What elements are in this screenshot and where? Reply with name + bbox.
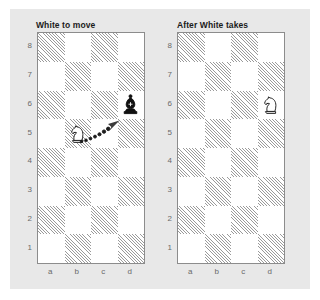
rank-label-6: 6 (18, 99, 32, 108)
board-title-before: White to move (36, 20, 95, 30)
board-panel-before: White to move 87654321abcd (10, 9, 160, 289)
square-b3[interactable] (65, 177, 92, 206)
board-title-after: After White takes (177, 20, 248, 30)
square-d3[interactable] (118, 177, 145, 206)
square-b6[interactable] (65, 91, 92, 120)
square-a2[interactable] (38, 206, 65, 235)
square-a4[interactable] (38, 148, 65, 177)
rank-label-5: 5 (158, 128, 172, 137)
square-a8[interactable] (178, 33, 205, 62)
square-c3[interactable] (231, 177, 258, 206)
square-c5[interactable] (231, 119, 258, 148)
file-label-d: d (257, 267, 284, 276)
square-a3[interactable] (178, 177, 205, 206)
rank-label-3: 3 (158, 185, 172, 194)
square-b1[interactable] (65, 234, 92, 263)
board-panel-after: After White takes 87654321abcd (160, 9, 310, 289)
square-c2[interactable] (231, 206, 258, 235)
rank-label-6: 6 (158, 99, 172, 108)
rank-label-4: 4 (158, 156, 172, 165)
square-a7[interactable] (38, 62, 65, 91)
chess-figure: White to move 87654321abcd After White t… (10, 9, 310, 289)
square-d6[interactable] (258, 91, 285, 120)
square-a5[interactable] (178, 119, 205, 148)
file-label-d: d (117, 267, 144, 276)
square-a3[interactable] (38, 177, 65, 206)
square-d2[interactable] (118, 206, 145, 235)
rank-label-8: 8 (158, 41, 172, 50)
square-d4[interactable] (118, 148, 145, 177)
square-d7[interactable] (258, 62, 285, 91)
square-b7[interactable] (65, 62, 92, 91)
square-a1[interactable] (178, 234, 205, 263)
square-c1[interactable] (231, 234, 258, 263)
square-a6[interactable] (38, 91, 65, 120)
file-label-a: a (177, 267, 204, 276)
square-a5[interactable] (38, 119, 65, 148)
square-a2[interactable] (178, 206, 205, 235)
square-a7[interactable] (178, 62, 205, 91)
square-b2[interactable] (65, 206, 92, 235)
square-c7[interactable] (91, 62, 118, 91)
square-d1[interactable] (118, 234, 145, 263)
square-d5[interactable] (118, 119, 145, 148)
rank-label-5: 5 (18, 128, 32, 137)
rank-label-2: 2 (158, 214, 172, 223)
square-b8[interactable] (65, 33, 92, 62)
square-a6[interactable] (178, 91, 205, 120)
square-c1[interactable] (91, 234, 118, 263)
square-a4[interactable] (178, 148, 205, 177)
rank-label-4: 4 (18, 156, 32, 165)
square-b1[interactable] (205, 234, 232, 263)
square-d7[interactable] (118, 62, 145, 91)
square-c7[interactable] (231, 62, 258, 91)
square-c5[interactable] (91, 119, 118, 148)
square-d6[interactable] (118, 91, 145, 120)
square-b7[interactable] (205, 62, 232, 91)
rank-label-2: 2 (18, 214, 32, 223)
square-d1[interactable] (258, 234, 285, 263)
file-label-b: b (64, 267, 91, 276)
square-d8[interactable] (258, 33, 285, 62)
rank-label-7: 7 (18, 70, 32, 79)
chess-board-after[interactable] (177, 32, 285, 264)
square-c4[interactable] (91, 148, 118, 177)
square-b5[interactable] (65, 119, 92, 148)
rank-label-1: 1 (18, 243, 32, 252)
file-label-a: a (37, 267, 64, 276)
square-b4[interactable] (65, 148, 92, 177)
square-b5[interactable] (205, 119, 232, 148)
square-c3[interactable] (91, 177, 118, 206)
chess-board-before[interactable] (37, 32, 145, 264)
square-d4[interactable] (258, 148, 285, 177)
rank-label-1: 1 (158, 243, 172, 252)
board-wrap-after: 87654321abcd (177, 32, 285, 264)
square-d3[interactable] (258, 177, 285, 206)
square-b8[interactable] (205, 33, 232, 62)
square-b3[interactable] (205, 177, 232, 206)
square-c8[interactable] (91, 33, 118, 62)
square-b4[interactable] (205, 148, 232, 177)
square-d5[interactable] (258, 119, 285, 148)
file-label-c: c (90, 267, 117, 276)
square-c4[interactable] (231, 148, 258, 177)
square-b2[interactable] (205, 206, 232, 235)
square-c6[interactable] (231, 91, 258, 120)
board-wrap-before: 87654321abcd (37, 32, 145, 264)
rank-label-3: 3 (18, 185, 32, 194)
square-d8[interactable] (118, 33, 145, 62)
square-b6[interactable] (205, 91, 232, 120)
square-c8[interactable] (231, 33, 258, 62)
file-label-b: b (204, 267, 231, 276)
rank-label-7: 7 (158, 70, 172, 79)
square-a1[interactable] (38, 234, 65, 263)
square-d2[interactable] (258, 206, 285, 235)
file-label-c: c (230, 267, 257, 276)
rank-label-8: 8 (18, 41, 32, 50)
square-c6[interactable] (91, 91, 118, 120)
square-c2[interactable] (91, 206, 118, 235)
square-a8[interactable] (38, 33, 65, 62)
